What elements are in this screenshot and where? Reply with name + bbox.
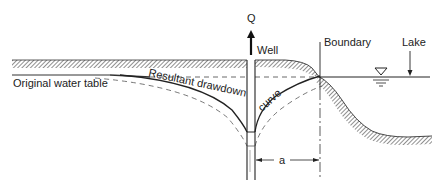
distance-label: a <box>279 154 286 166</box>
well-casing <box>247 60 255 180</box>
ground-surface-right <box>255 60 320 78</box>
discharge-arrow <box>247 30 255 55</box>
lake-bank <box>316 76 432 145</box>
lake-arrow <box>408 51 413 76</box>
resultant-drawdown-label: Resultant drawdown <box>148 66 248 98</box>
well-label: Well <box>257 44 278 56</box>
well-drawdown-diagram: Q Well Boundary Lake a Original water ta… <box>0 0 442 189</box>
lake-label: Lake <box>402 36 426 48</box>
original-water-table-label: Original water table <box>13 77 108 89</box>
ground-surface-left <box>12 60 247 68</box>
boundary-label: Boundary <box>324 36 372 48</box>
distance-dimension <box>256 158 319 162</box>
curve-label: curve <box>255 87 283 114</box>
discharge-label: Q <box>247 12 256 24</box>
